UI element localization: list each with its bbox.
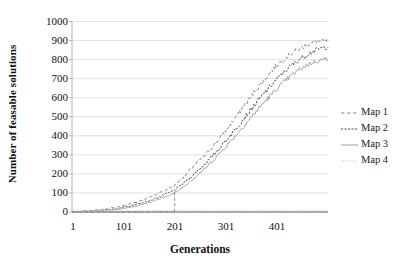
dashed-line-key — [341, 108, 358, 117]
legend-label-map-1: Map 1 — [361, 107, 388, 118]
series-line-map-2 — [72, 47, 328, 212]
legend-item-map-2[interactable]: Map 2 — [341, 120, 409, 136]
legend-label-map-3: Map 3 — [361, 139, 388, 150]
dash-dot-line-key — [341, 124, 358, 133]
gridlines — [72, 22, 328, 193]
legend-label-map-4: Map 4 — [361, 155, 388, 166]
y-axis-line — [69, 22, 72, 213]
data-series-group — [72, 39, 328, 212]
chart-figure: Number of feasable solutions Generations… — [0, 0, 412, 273]
solid-line-key — [341, 140, 358, 149]
legend-label-map-2: Map 2 — [361, 123, 388, 134]
legend-item-map-3[interactable]: Map 3 — [341, 136, 409, 152]
legend-item-map-1[interactable]: Map 1 — [341, 104, 409, 120]
chart-legend: Map 1 Map 2 Map 3 Map 4 — [341, 104, 409, 168]
dotted-line-key — [341, 156, 358, 165]
series-line-map-3 — [72, 58, 328, 212]
legend-item-map-4[interactable]: Map 4 — [341, 152, 409, 168]
